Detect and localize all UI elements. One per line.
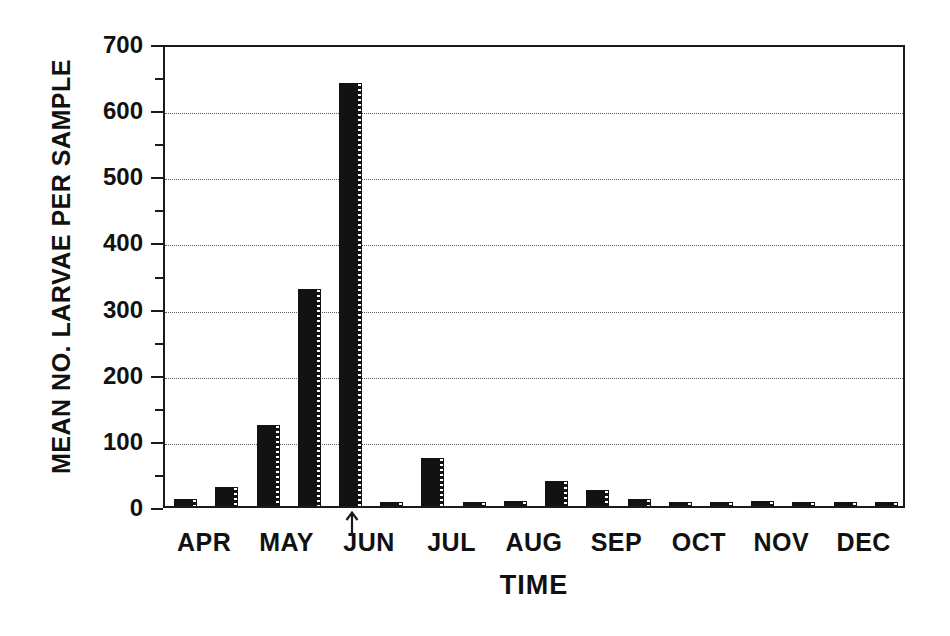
bar <box>834 502 857 506</box>
bar-highlight-stripe <box>276 426 279 506</box>
y-tick-label: 600 <box>63 99 143 123</box>
y-tick-minor <box>155 277 163 279</box>
bar-highlight-stripe <box>523 502 526 506</box>
bar <box>174 499 197 506</box>
y-tick-label: 200 <box>63 364 143 388</box>
x-tick-label-dec: DEC <box>804 528 924 557</box>
bar-highlight-stripe <box>358 84 361 506</box>
bar-highlight-stripe <box>894 503 897 506</box>
bar-highlight-stripe <box>770 502 773 506</box>
bar-highlight-stripe <box>317 290 320 506</box>
y-tick-label: 400 <box>63 231 143 255</box>
y-tick-label: 700 <box>63 33 143 57</box>
bar <box>463 502 486 506</box>
bar-highlight-stripe <box>234 488 237 506</box>
y-tick-label: 300 <box>63 298 143 322</box>
bar-highlight-stripe <box>647 500 650 506</box>
bar <box>380 502 403 506</box>
bar <box>710 502 733 506</box>
bar-highlight-stripe <box>605 491 608 506</box>
y-tick-label: 0 <box>63 496 143 520</box>
bar <box>751 501 774 506</box>
bar-series <box>165 47 903 506</box>
bar-highlight-stripe <box>564 482 567 506</box>
y-tick-minor <box>155 78 163 80</box>
bar <box>298 289 321 506</box>
y-tick-major <box>151 310 163 312</box>
y-tick-minor <box>155 475 163 477</box>
bar <box>628 499 651 506</box>
bar <box>669 502 692 506</box>
y-tick-minor <box>155 409 163 411</box>
bar <box>586 490 609 506</box>
y-tick-minor <box>155 144 163 146</box>
chart-figure: MEAN NO. LARVAE PER SAMPLE 0100200300400… <box>0 0 950 636</box>
plot-area <box>163 45 905 508</box>
y-tick-minor <box>155 210 163 212</box>
y-tick-label: 500 <box>63 165 143 189</box>
y-tick-minor <box>155 343 163 345</box>
bar-highlight-stripe <box>729 503 732 506</box>
bar <box>504 501 527 506</box>
bar <box>421 458 444 506</box>
y-tick-major <box>151 45 163 47</box>
y-tick-major <box>151 376 163 378</box>
y-tick-major <box>151 442 163 444</box>
bar-highlight-stripe <box>853 503 856 506</box>
bar-highlight-stripe <box>688 503 691 506</box>
bar <box>545 481 568 506</box>
y-tick-major <box>151 508 163 510</box>
bar-highlight-stripe <box>193 500 196 506</box>
arrow-up-icon <box>343 509 361 535</box>
bar <box>257 425 280 506</box>
bar-highlight-stripe <box>399 503 402 506</box>
y-tick-major <box>151 243 163 245</box>
bar-highlight-stripe <box>440 459 443 506</box>
x-axis-title: TIME <box>163 570 905 601</box>
bar <box>875 502 898 506</box>
bar-highlight-stripe <box>811 503 814 506</box>
y-tick-major <box>151 177 163 179</box>
bar <box>215 487 238 506</box>
bar <box>339 83 362 506</box>
bar <box>792 502 815 506</box>
bar-highlight-stripe <box>482 503 485 506</box>
y-tick-label: 100 <box>63 430 143 454</box>
y-tick-major <box>151 111 163 113</box>
